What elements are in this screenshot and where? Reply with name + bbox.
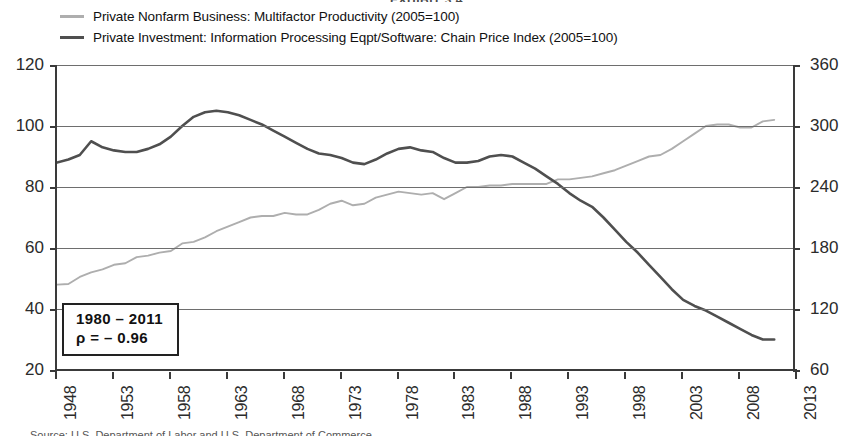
y-axis-right-label: 240 xyxy=(810,177,838,197)
y-tick-right xyxy=(793,309,800,311)
y-tick-left xyxy=(50,187,57,189)
legend-swatch-price-index xyxy=(60,36,84,39)
y-axis-right-label: 120 xyxy=(810,299,838,319)
correlation-annotation-box: 1980 – 2011 ρ = – 0.96 xyxy=(62,303,179,356)
x-axis-label: 1983 xyxy=(460,386,478,420)
legend-swatch-productivity xyxy=(60,15,84,18)
x-axis-label: 1963 xyxy=(233,386,251,420)
x-axis-label: 2003 xyxy=(688,386,706,420)
x-axis-label: 1998 xyxy=(631,386,649,420)
x-tick xyxy=(681,372,683,379)
line-multifactor-productivity xyxy=(57,120,774,285)
y-axis-right-label: 60 xyxy=(810,360,829,380)
legend-label-price-index: Private Investment: Information Processi… xyxy=(93,30,618,45)
annotation-correlation: ρ = – 0.96 xyxy=(76,329,163,348)
chart-legend: Private Nonfarm Business: Multifactor Pr… xyxy=(60,6,760,48)
legend-item-chain-price-index: Private Investment: Information Processi… xyxy=(60,27,760,48)
x-axis-label: 1978 xyxy=(404,386,422,420)
x-axis: 1948195319581963196819731978198319881993… xyxy=(55,372,795,424)
y-axis-right-label: 360 xyxy=(810,55,838,75)
x-axis-label: 1993 xyxy=(574,386,592,420)
y-axis-right-label: 180 xyxy=(810,238,838,258)
y-axis-left-label: 80 xyxy=(25,177,44,197)
x-axis-label: 1988 xyxy=(517,386,535,420)
gridline xyxy=(57,65,797,66)
x-tick xyxy=(112,372,114,379)
x-tick xyxy=(340,372,342,379)
y-tick-left xyxy=(50,126,57,128)
x-tick xyxy=(567,372,569,379)
x-axis-label: 1958 xyxy=(176,386,194,420)
y-axis-left-label: 120 xyxy=(16,55,44,75)
y-tick-left xyxy=(50,248,57,250)
x-axis-label: 2013 xyxy=(802,386,820,420)
gridline xyxy=(57,126,797,127)
x-tick xyxy=(55,372,57,379)
x-axis-line xyxy=(57,369,797,371)
y-axis-left-label: 100 xyxy=(16,116,44,136)
x-axis-label: 2008 xyxy=(745,386,763,420)
x-tick xyxy=(169,372,171,379)
y-tick-left xyxy=(50,309,57,311)
y-axis-left-label: 40 xyxy=(25,299,44,319)
y-axis-right-label: 300 xyxy=(810,116,838,136)
x-axis-label: 1968 xyxy=(290,386,308,420)
x-axis-label: 1953 xyxy=(119,386,137,420)
y-axis-right: 60120180240300360 xyxy=(810,65,853,370)
gridline xyxy=(57,187,797,188)
y-tick-right xyxy=(793,126,800,128)
x-tick xyxy=(738,372,740,379)
y-tick-right xyxy=(793,248,800,250)
x-tick xyxy=(795,372,797,379)
x-tick xyxy=(624,372,626,379)
legend-label-productivity: Private Nonfarm Business: Multifactor Pr… xyxy=(93,9,459,24)
y-axis-left-label: 20 xyxy=(25,360,44,380)
x-axis-label: 1948 xyxy=(62,386,80,420)
exhibit-title: EXHIBIT 3.4 xyxy=(0,0,853,2)
y-axis-left-label: 60 xyxy=(25,238,44,258)
y-tick-right xyxy=(793,65,800,67)
x-tick xyxy=(226,372,228,379)
y-tick-left xyxy=(50,65,57,67)
x-tick xyxy=(397,372,399,379)
x-tick xyxy=(453,372,455,379)
x-tick xyxy=(283,372,285,379)
x-axis-label: 1973 xyxy=(347,386,365,420)
y-tick-right xyxy=(793,187,800,189)
source-note: Source: U.S. Department of Labor and U.S… xyxy=(30,429,372,436)
y-axis-left: 20406080100120 xyxy=(0,65,44,370)
legend-item-multifactor-productivity: Private Nonfarm Business: Multifactor Pr… xyxy=(60,6,760,27)
x-tick xyxy=(510,372,512,379)
annotation-period: 1980 – 2011 xyxy=(76,310,163,329)
gridline xyxy=(57,248,797,249)
